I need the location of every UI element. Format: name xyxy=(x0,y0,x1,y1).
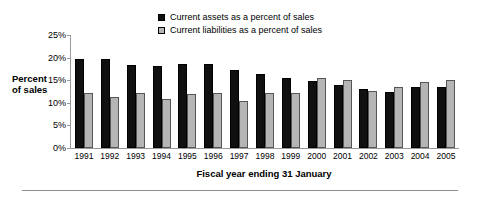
bar-group xyxy=(200,35,226,148)
bar-group xyxy=(149,35,175,148)
x-axis-tick-label: 2002 xyxy=(355,151,381,161)
bar-current-assets xyxy=(204,64,213,148)
bar-current-liabilities xyxy=(187,94,196,148)
bar-group xyxy=(330,35,356,148)
x-axis-tick-label: 1995 xyxy=(174,151,200,161)
bar-group xyxy=(252,35,278,148)
chart-figure: Current assets as a percent of sales Cur… xyxy=(0,0,478,202)
bar-current-assets xyxy=(178,64,187,148)
bar-current-assets xyxy=(101,59,110,148)
x-axis-tick-label: 2001 xyxy=(330,151,356,161)
bar-group xyxy=(97,35,123,148)
bar-current-liabilities xyxy=(213,93,222,148)
bar-group xyxy=(407,35,433,148)
bar-current-liabilities xyxy=(446,80,455,148)
bar-groups xyxy=(71,35,459,148)
x-axis-line xyxy=(70,148,459,149)
bar-group xyxy=(278,35,304,148)
y-axis-tick-mark xyxy=(67,125,70,126)
y-axis-tick-label: 25% xyxy=(36,31,66,40)
x-axis-tick-labels: 1991199219931994199519961997199819992000… xyxy=(71,151,459,161)
legend-label-current-assets: Current assets as a percent of sales xyxy=(170,12,314,22)
bar-group xyxy=(355,35,381,148)
plot-area: 0%5%10%15%20%25% xyxy=(70,35,459,148)
bar-current-liabilities xyxy=(239,101,248,148)
bar-group xyxy=(174,35,200,148)
bar-current-liabilities xyxy=(291,93,300,148)
bar-current-assets xyxy=(411,87,420,148)
bar-current-assets xyxy=(230,70,239,148)
bar-current-liabilities xyxy=(420,82,429,148)
legend-item-current-assets: Current assets as a percent of sales xyxy=(158,11,368,23)
bar-group xyxy=(71,35,97,148)
bar-group xyxy=(304,35,330,148)
bar-current-liabilities xyxy=(368,91,377,148)
y-axis-tick-label: 10% xyxy=(36,98,66,107)
x-axis-title-text: Fiscal year ending 31 January xyxy=(146,168,331,179)
bar-group xyxy=(433,35,459,148)
x-axis-tick-label: 1996 xyxy=(200,151,226,161)
x-axis-tick-label: 2005 xyxy=(433,151,459,161)
y-axis-title-line-2: of sales xyxy=(12,84,66,95)
x-axis-tick-label: 1993 xyxy=(123,151,149,161)
chart-legend: Current assets as a percent of sales Cur… xyxy=(158,11,368,37)
y-axis-tick-mark xyxy=(67,80,70,81)
bar-current-liabilities xyxy=(394,87,403,148)
bar-current-assets xyxy=(308,81,317,148)
bar-current-liabilities xyxy=(343,80,352,148)
bar-current-liabilities xyxy=(84,93,93,148)
bar-current-liabilities xyxy=(162,99,171,148)
y-axis-tick-label: 15% xyxy=(36,76,66,85)
bar-current-assets xyxy=(334,85,343,148)
bar-current-assets xyxy=(75,59,84,148)
y-axis-tick-label: 20% xyxy=(36,53,66,62)
bar-current-assets xyxy=(256,74,265,148)
bar-group xyxy=(226,35,252,148)
x-axis-tick-label: 1994 xyxy=(149,151,175,161)
x-axis-tick-label: 2000 xyxy=(304,151,330,161)
footer-divider xyxy=(22,190,458,191)
y-axis-tick-mark xyxy=(67,58,70,59)
y-axis-tick-mark xyxy=(67,148,70,149)
bar-current-assets xyxy=(359,89,368,148)
y-axis-tick-mark xyxy=(67,103,70,104)
bar-current-liabilities xyxy=(265,93,274,148)
bar-current-assets xyxy=(282,78,291,148)
x-axis-tick-label: 2004 xyxy=(407,151,433,161)
x-axis-tick-label: 1998 xyxy=(252,151,278,161)
bar-current-liabilities xyxy=(136,93,145,148)
bar-current-assets xyxy=(385,92,394,149)
bar-current-liabilities xyxy=(110,97,119,148)
x-axis-tick-label: 1991 xyxy=(71,151,97,161)
legend-swatch-icon-current-assets xyxy=(158,14,165,21)
bar-current-assets xyxy=(437,87,446,148)
bar-current-assets xyxy=(153,66,162,148)
bar-current-liabilities xyxy=(317,78,326,149)
legend-swatch-icon-current-liabilities xyxy=(158,27,165,34)
y-axis-tick-mark xyxy=(67,35,70,36)
x-axis-tick-label: 1992 xyxy=(97,151,123,161)
bar-group xyxy=(381,35,407,148)
bar-current-assets xyxy=(127,65,136,148)
x-axis-tick-label: 2003 xyxy=(381,151,407,161)
y-axis-tick-label: 5% xyxy=(36,121,66,130)
x-axis-title: Fiscal year ending 31 January xyxy=(0,168,478,179)
y-axis-tick-label: 0% xyxy=(36,144,66,153)
x-axis-tick-label: 1999 xyxy=(278,151,304,161)
x-axis-tick-label: 1997 xyxy=(226,151,252,161)
bar-group xyxy=(123,35,149,148)
legend-label-current-liabilities: Current liabilities as a percent of sale… xyxy=(170,25,322,35)
